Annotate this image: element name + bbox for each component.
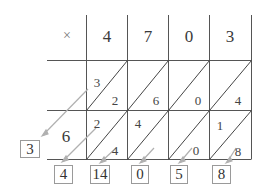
result-box-left: 3: [20, 140, 40, 158]
cell-ones-digit: 4: [235, 94, 242, 107]
cell-ones-digit: 0: [195, 94, 202, 107]
multiplicand-digit: 0: [185, 28, 194, 45]
cell-ones-digit: 2: [112, 94, 119, 107]
multiplicand-digit: 7: [144, 28, 153, 45]
multiplier-digit: 6: [62, 128, 71, 145]
cell-tens-digit: 3: [94, 76, 101, 89]
cell-tens-digit: 4: [135, 117, 142, 130]
cell-tens-digit: 1: [217, 119, 224, 132]
result-box: 0: [131, 165, 149, 184]
cell-ones-digit: 0: [193, 144, 200, 157]
cell-tens-digit: 2: [94, 117, 101, 130]
result-box: 5: [170, 165, 188, 184]
multiplicand-digit: 4: [103, 28, 112, 45]
result-box: 8: [212, 165, 231, 184]
cell-ones-digit: 4: [112, 144, 119, 157]
multiplicand-digit: 3: [226, 28, 235, 45]
cell-ones-digit: 8: [235, 145, 242, 158]
result-box: 14: [90, 165, 110, 184]
result-box: 4: [54, 165, 73, 184]
grid-horizontal-lines: [47, 61, 252, 160]
times-symbol: ×: [63, 29, 71, 43]
cell-ones-digit: 6: [153, 94, 160, 107]
